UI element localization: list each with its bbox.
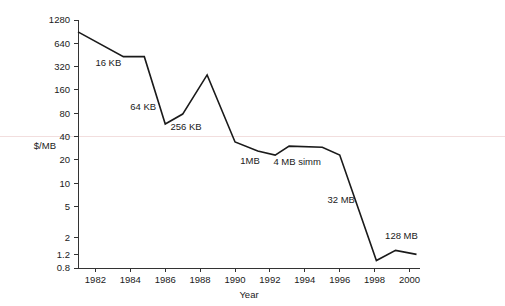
y-tick-label: 20 [59, 154, 70, 165]
data-point-label: 64 KB [130, 101, 156, 112]
y-tick-label: 1.2 [57, 249, 70, 260]
data-point-label: 4 MB simm [273, 156, 321, 167]
y-tick-label: 40 [59, 131, 70, 142]
data-point-label: 256 KB [171, 121, 202, 132]
x-axis: 1982198419861988199019921994199619982000 [78, 268, 420, 285]
chart-container: 128064032016080402010521.20.8 1982198419… [0, 0, 505, 306]
x-tick-label: 1984 [120, 274, 141, 285]
data-point-annotations: 16 KB64 KB256 KB1MB4 MB simm32 MB128 MB [95, 57, 417, 241]
x-axis-title: Year [239, 289, 258, 300]
x-axis-tick-labels: 1982198419861988199019921994199619982000 [85, 274, 420, 285]
x-tick-label: 2000 [399, 274, 420, 285]
x-tick-label: 1988 [190, 274, 211, 285]
x-tick-label: 1998 [364, 274, 385, 285]
x-tick-label: 1982 [85, 274, 106, 285]
y-axis-ticks [74, 20, 78, 268]
data-point-label: 32 MB [328, 194, 355, 205]
dram-price-line-chart: 128064032016080402010521.20.8 1982198419… [0, 0, 505, 306]
x-axis-ticks [95, 268, 409, 272]
y-tick-label: 5 [65, 201, 70, 212]
series-line-0 [78, 32, 417, 261]
data-point-label: 16 KB [95, 57, 121, 68]
y-axis-title: $/MB [34, 140, 56, 151]
y-tick-label: 160 [54, 84, 70, 95]
data-point-label: 1MB [240, 155, 260, 166]
y-tick-label: 10 [59, 178, 70, 189]
x-tick-label: 1994 [294, 274, 315, 285]
y-tick-label: 320 [54, 61, 70, 72]
x-tick-label: 1986 [155, 274, 176, 285]
x-tick-label: 1996 [329, 274, 350, 285]
x-tick-label: 1992 [259, 274, 280, 285]
y-tick-label: 80 [59, 108, 70, 119]
data-point-label: 128 MB [385, 230, 418, 241]
y-tick-label: 1280 [49, 14, 70, 25]
y-tick-label: 640 [54, 38, 70, 49]
y-tick-label: 0.8 [57, 262, 70, 273]
x-tick-label: 1990 [224, 274, 245, 285]
data-series-group [78, 32, 417, 261]
y-tick-label: 2 [65, 232, 70, 243]
